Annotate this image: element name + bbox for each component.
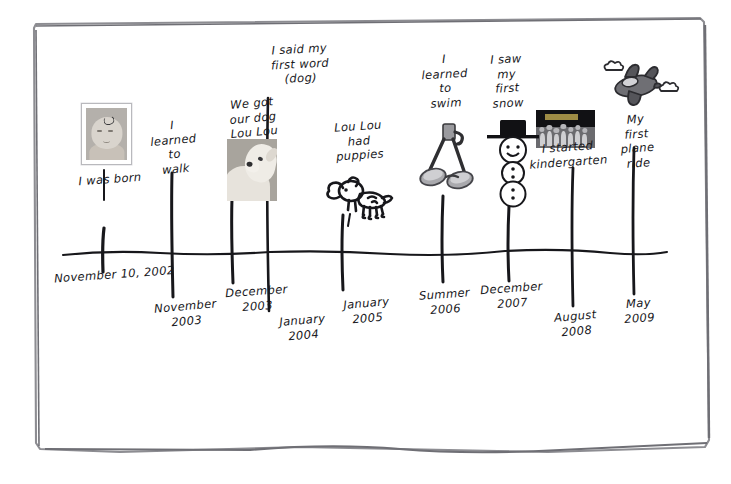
event-label-snow: I saw my first snow [477, 51, 538, 112]
photo-baby [81, 103, 132, 165]
event-label-puppies: Lou Lou had puppies [322, 117, 397, 165]
date-label-first-word: January 2004 [267, 310, 339, 345]
date-label-dog: December 2003 [219, 281, 295, 315]
event-label-first-word: I said my first word (dog) [249, 39, 351, 88]
event-label-plane: My first plane ride [610, 110, 664, 171]
date-label-swim: Summer 2006 [411, 285, 479, 319]
date-label-kindergarten: August 2008 [541, 306, 611, 341]
timeline-poster: I was born I learned to walk We got our … [0, 0, 731, 484]
date-label-plane: May 2009 [611, 294, 667, 327]
date-label-puppies: January 2005 [333, 293, 401, 328]
event-label-swim: I learned to swim [417, 51, 474, 112]
drawing-airplane-with-clouds [598, 58, 680, 114]
event-label-dog: We got our dog Lou Lou [216, 93, 290, 142]
drawing-dog-with-puppies [318, 172, 394, 224]
event-label-walk: I learned to walk [146, 116, 203, 178]
date-label-snow: December 2007 [472, 278, 552, 312]
photo-dog-lou-lou [227, 139, 277, 201]
drawing-swim-goggles [417, 122, 479, 190]
event-label-kindergarten: I started kindergarten [527, 137, 609, 172]
